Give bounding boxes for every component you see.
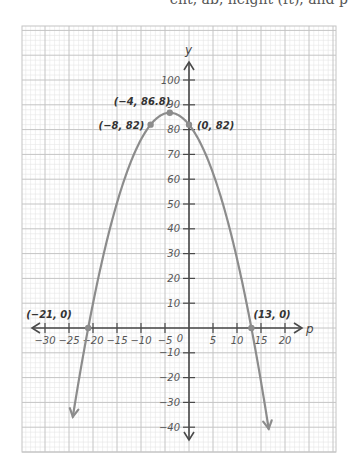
y-tick-label: 50 <box>167 199 180 210</box>
x-tick-label: 5 <box>210 335 216 346</box>
point-marker <box>248 325 254 331</box>
point-label: (−21, 0) <box>26 309 72 320</box>
point-label: (13, 0) <box>253 309 290 320</box>
point-label: (−8, 82) <box>99 120 145 131</box>
point-label: (−4, 86.8) <box>114 96 170 107</box>
y-tick-label: 80 <box>167 124 180 135</box>
x-tick-label: −15 <box>106 335 127 346</box>
point-marker <box>147 121 153 127</box>
x-tick-label: −10 <box>130 335 151 346</box>
labeled-points: (−4, 86.8)(−8, 82)(0, 82)(−21, 0)(13, 0) <box>26 96 290 331</box>
x-axis-label: p <box>305 322 314 336</box>
y-tick-label: 60 <box>167 174 180 185</box>
y-tick-label: 40 <box>167 223 180 234</box>
y-tick-label: −20 <box>159 372 180 383</box>
y-tick-label: −40 <box>159 422 180 433</box>
point-marker <box>186 121 192 127</box>
y-tick-label: 100 <box>161 75 180 86</box>
y-tick-label: 30 <box>167 248 180 259</box>
x-tick-label: 10 <box>231 335 244 346</box>
y-tick-label: −10 <box>159 347 180 358</box>
y-tick-label: 20 <box>167 273 180 284</box>
point-marker <box>167 110 173 116</box>
x-tick-label: −5 <box>158 335 173 346</box>
y-tick-label: −30 <box>159 397 180 408</box>
y-tick-label: 10 <box>167 298 180 309</box>
x-tick-label: −25 <box>58 335 79 346</box>
origin-label: 0 <box>177 333 183 344</box>
parabola-chart: py −30−25−20−15−10−551015200100908070605… <box>0 0 348 461</box>
point-label: (0, 82) <box>197 120 234 131</box>
x-tick-label: −30 <box>34 335 55 346</box>
y-tick-label: 70 <box>167 149 180 160</box>
x-tick-label: 15 <box>255 335 268 346</box>
y-axis-label: y <box>184 43 193 57</box>
point-marker <box>85 325 91 331</box>
x-tick-label: 20 <box>279 335 292 346</box>
